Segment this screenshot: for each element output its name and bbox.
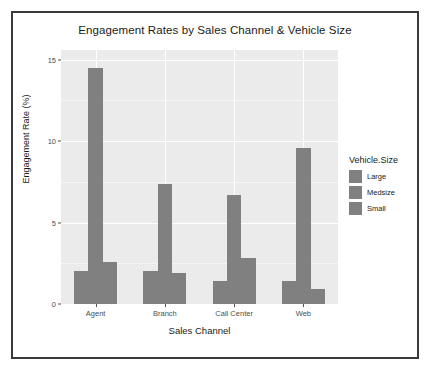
bar (296, 148, 310, 304)
legend-swatch-icon (349, 170, 362, 183)
bar (143, 271, 157, 304)
y-tick-label: 0 (36, 300, 56, 309)
bar (158, 184, 172, 304)
x-tick-label: Branch (153, 309, 177, 318)
x-tick-label: Call Center (215, 309, 253, 318)
chart-title: Engagement Rates by Sales Channel & Vehi… (13, 24, 417, 36)
bar (227, 195, 241, 304)
legend: Vehicle.Size LargeMedsizeSmall (349, 155, 415, 218)
bar (311, 289, 325, 304)
x-tick-mark (165, 304, 166, 307)
legend-label: Small (367, 204, 386, 213)
x-tick-mark (234, 304, 235, 307)
y-tick-label: 10 (36, 137, 56, 146)
x-tick-label: Agent (86, 309, 106, 318)
y-tick-label: 5 (36, 218, 56, 227)
legend-items: LargeMedsizeSmall (349, 170, 415, 215)
screenshot-root: Engagement Rates by Sales Channel & Vehi… (0, 0, 430, 370)
bar (282, 281, 296, 304)
x-axis-title: Sales Channel (61, 325, 338, 336)
bar (241, 258, 255, 304)
bar (74, 271, 88, 304)
legend-swatch-icon (349, 186, 362, 199)
bar (103, 262, 117, 304)
legend-swatch-icon (349, 202, 362, 215)
x-axis: AgentBranchCall CenterWeb (61, 304, 338, 324)
x-tick-mark (303, 304, 304, 307)
chart-frame: Engagement Rates by Sales Channel & Vehi… (11, 11, 419, 359)
x-tick-label: Web (296, 309, 311, 318)
plot-wrapper: Engagement Rates by Sales Channel & Vehi… (13, 13, 417, 357)
legend-label: Medsize (367, 188, 395, 197)
y-tick-mark (58, 59, 61, 60)
legend-label: Large (367, 172, 386, 181)
legend-item[interactable]: Large (349, 170, 415, 183)
y-axis-title: Engagement Rate (%) (21, 59, 31, 219)
plot-panel (61, 50, 338, 304)
gridline-major (61, 60, 338, 61)
x-tick-mark (96, 304, 97, 307)
bar (172, 273, 186, 304)
legend-item[interactable]: Small (349, 202, 415, 215)
y-tick-label: 15 (36, 55, 56, 64)
bar (88, 68, 102, 304)
legend-item[interactable]: Medsize (349, 186, 415, 199)
bar (213, 281, 227, 304)
legend-title: Vehicle.Size (349, 155, 415, 165)
y-tick-mark (58, 141, 61, 142)
y-axis: 051015 (35, 50, 61, 304)
y-tick-mark (58, 222, 61, 223)
